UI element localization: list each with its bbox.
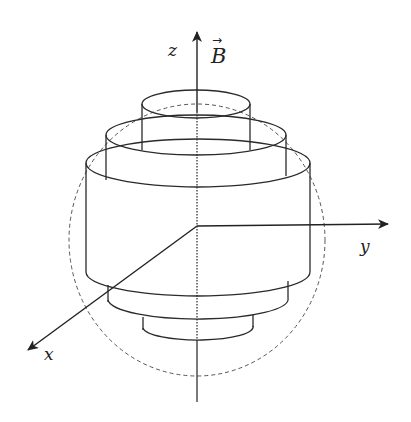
y-axis (197, 224, 388, 226)
x-axis (28, 226, 197, 350)
vector-arrow-glyph: → (212, 33, 222, 47)
field-vector-label: B (210, 44, 226, 68)
diagram-canvas: z y x B → (0, 0, 411, 422)
cylinder-bottom (143, 314, 253, 340)
z-axis-label: z (167, 40, 178, 60)
cylinder-lower (108, 281, 288, 319)
x-axis-label: x (44, 344, 54, 364)
cylinder-middle (86, 139, 310, 296)
cylinder-upper (106, 115, 286, 180)
y-axis-label: y (359, 236, 370, 256)
